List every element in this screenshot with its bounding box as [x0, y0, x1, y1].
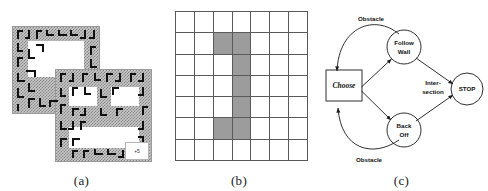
wall-segment [100, 114, 107, 116]
wall-segment [94, 79, 101, 81]
grid-cell[interactable] [289, 54, 308, 75]
grid-cell-occupied[interactable] [213, 118, 232, 139]
grid-cell[interactable] [251, 97, 270, 118]
wall-segment [84, 93, 91, 95]
grid-cell[interactable] [194, 118, 213, 139]
wall-segment [94, 153, 103, 155]
wall-segment [42, 44, 44, 52]
grid-cell[interactable] [289, 33, 308, 54]
edge-label-intersection-line1: Inter- [425, 79, 440, 86]
edge-label-obstacle-top: Obstacle [358, 15, 385, 22]
wall-segment [107, 153, 116, 155]
edge-choose-to-back-off [362, 91, 392, 120]
grid-row [176, 12, 308, 33]
wall-segment [115, 80, 121, 82]
grid-cell[interactable] [176, 12, 195, 33]
grid-cell[interactable] [251, 12, 270, 33]
wall-segment [60, 95, 66, 97]
grid-cell[interactable] [176, 75, 195, 96]
grid-cell[interactable] [194, 97, 213, 118]
wall-segment [60, 73, 66, 75]
wall-segment [25, 37, 30, 39]
edge-follow-wall-to-choose-obstacle [337, 25, 399, 71]
wall-segment [138, 128, 144, 130]
grid-cell[interactable] [251, 75, 270, 96]
grid-cell[interactable] [251, 139, 270, 160]
grid-cell[interactable] [194, 54, 213, 75]
grid-row [176, 139, 308, 160]
wall-segment [17, 50, 23, 52]
grid-cell[interactable] [289, 12, 308, 33]
grid-cell[interactable] [270, 97, 289, 118]
grid-cell-occupied[interactable] [232, 118, 251, 139]
grid-cell[interactable] [213, 54, 232, 75]
wall-segment [80, 121, 86, 123]
grid-cell[interactable] [176, 139, 195, 160]
wall-segment [72, 87, 78, 89]
grid-cell-occupied[interactable] [232, 33, 251, 54]
wall-segment [72, 108, 79, 110]
grid-cell[interactable] [270, 33, 289, 54]
grid-row [176, 118, 308, 139]
grid-cell[interactable] [194, 75, 213, 96]
wall-segment [28, 57, 35, 59]
grid-cell[interactable] [232, 139, 251, 160]
grid-cell-occupied[interactable] [232, 54, 251, 75]
grid-cell[interactable] [251, 118, 270, 139]
wall-segment [142, 106, 148, 108]
grid-cell-occupied[interactable] [213, 33, 232, 54]
wall-segment [118, 156, 124, 158]
grid-cell[interactable] [176, 118, 195, 139]
grid-cell[interactable] [270, 118, 289, 139]
grid-cell[interactable] [176, 54, 195, 75]
wall-segment [17, 30, 23, 32]
wall-segment [130, 73, 136, 75]
grid-cell-occupied[interactable] [232, 75, 251, 96]
grid-cell[interactable] [232, 12, 251, 33]
grid-cell[interactable] [270, 139, 289, 160]
grid-cell[interactable] [251, 33, 270, 54]
grid-cell[interactable] [270, 75, 289, 96]
wall-segment [17, 57, 23, 59]
wall-segment [138, 136, 144, 138]
node-follow-wall-label-line2: Wall [398, 48, 411, 55]
edge-label-obstacle-bottom: Obstacle [356, 156, 383, 163]
grid-cell[interactable] [251, 54, 270, 75]
wall-segment [82, 73, 88, 75]
grid-cell[interactable] [176, 97, 195, 118]
wall-segment [90, 46, 96, 48]
grid-cell[interactable] [270, 54, 289, 75]
wall-segment [80, 114, 86, 116]
grid-cell-occupied[interactable] [232, 97, 251, 118]
grid-cell[interactable] [270, 12, 289, 33]
node-back-off-label-line2: Off [400, 131, 410, 138]
panel-c-state-diagram: Choose Follow Wall Back Off STOP Obstacl… [315, 0, 488, 191]
wall-segment [36, 30, 42, 32]
grid-cell[interactable] [289, 97, 308, 118]
grid-cell[interactable] [213, 75, 232, 96]
grid-cell[interactable] [289, 139, 308, 160]
wall-segment [46, 34, 54, 36]
grid-cell[interactable] [194, 139, 213, 160]
grid-cell[interactable] [176, 33, 195, 54]
wall-segment [34, 70, 36, 77]
grid-cell[interactable] [289, 118, 308, 139]
map-scale-badge: +5 [125, 142, 149, 160]
wall-segment [68, 128, 74, 130]
grid-cell[interactable] [194, 33, 213, 54]
state-diagram-svg: Choose Follow Wall Back Off STOP Obstacl… [315, 0, 488, 170]
grid-cell[interactable] [213, 97, 232, 118]
node-follow-wall-label-line1: Follow [394, 39, 414, 46]
panel-a-maze-map: +5 (a) [0, 0, 163, 191]
wall-segment [58, 34, 67, 36]
grid-cell[interactable] [289, 75, 308, 96]
maze-courtyard-lower-b [111, 87, 139, 106]
grid-cell[interactable] [213, 139, 232, 160]
wall-segment [83, 150, 89, 152]
wall-segment [72, 138, 80, 140]
grid-cell[interactable] [194, 12, 213, 33]
wall-segment [80, 37, 86, 39]
panel-b-caption: (b) [163, 173, 315, 189]
wall-segment [17, 80, 25, 82]
grid-cell[interactable] [213, 12, 232, 33]
